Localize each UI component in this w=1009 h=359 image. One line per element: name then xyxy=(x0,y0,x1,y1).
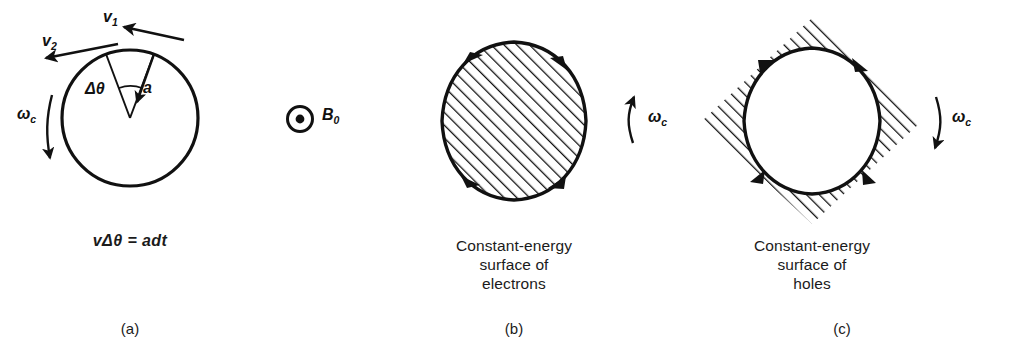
acceleration-label: a xyxy=(143,79,152,97)
omega-c-label-a: ωc xyxy=(17,105,36,125)
hole-arrow-top-left xyxy=(758,60,776,73)
panel-b-graphics xyxy=(420,20,634,220)
velocity-1-label: v1 xyxy=(103,8,118,28)
panel-b-caption: Constant-energy surface of electrons xyxy=(424,236,604,293)
panel-c-graphics xyxy=(690,10,940,235)
omega-c-label-c: ωc xyxy=(952,108,971,128)
delta-theta-label: Δθ xyxy=(85,80,105,98)
hole-arrow-top-right xyxy=(852,58,868,72)
omega-c-label-b: ωc xyxy=(648,108,667,128)
field-symbol-graphics xyxy=(288,107,313,132)
panel-label-a: (a) xyxy=(100,320,160,337)
panel-c-caption: Constant-energy surface of holes xyxy=(722,236,902,293)
panel-label-c: (c) xyxy=(812,320,872,337)
hole-arrow-bottom-right xyxy=(862,170,876,185)
omega-c-arrow-c xyxy=(935,97,940,148)
figure-canvas: v1 v2 a Δθ ωc vΔθ = adt B0 ωc Constant-e… xyxy=(0,0,1009,359)
panel-a-equation: vΔθ = adt xyxy=(40,232,220,250)
dot-in-circle-icon-dot xyxy=(296,115,305,124)
panel-a-graphics xyxy=(46,27,198,186)
electron-surface-hatch xyxy=(420,20,610,220)
omega-c-arrow-a xyxy=(47,95,52,158)
hole-surface-hatch xyxy=(690,10,940,235)
velocity-2-label: v2 xyxy=(42,32,57,52)
velocity-1-arrow xyxy=(124,27,184,40)
field-label: B0 xyxy=(322,106,339,126)
diagram-vector-layer xyxy=(0,0,1009,359)
panel-label-b: (b) xyxy=(484,320,544,337)
delta-theta-arc xyxy=(119,86,142,88)
omega-c-arrow-b xyxy=(629,97,634,143)
